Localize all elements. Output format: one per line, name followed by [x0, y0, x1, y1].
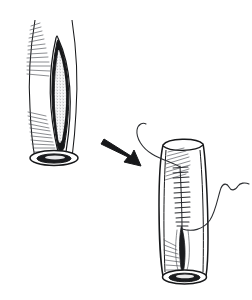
distal-lumen-highlight-before: [45, 155, 65, 159]
figure-root: Longitudinal incision repaired with runn…: [0, 0, 252, 300]
distal-lumen-highlight-after: [176, 275, 194, 279]
surgical-illustration: [0, 0, 252, 300]
